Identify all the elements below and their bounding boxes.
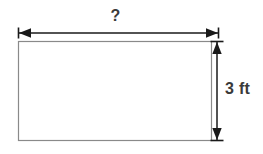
width-left-arrowhead — [19, 28, 31, 38]
height-top-arrowhead — [212, 42, 221, 54]
width-right-arrowhead — [206, 28, 218, 38]
width-dimension-label: ? — [0, 8, 231, 24]
height-dimension-label: 3 ft — [225, 81, 250, 97]
rectangle-outline — [19, 42, 212, 141]
width-dimension-arrow — [19, 28, 219, 39]
height-dimension-arrow — [211, 42, 224, 141]
geometry-diagram-canvas: ? 3 ft — [0, 0, 263, 154]
height-bottom-arrowhead — [212, 128, 221, 140]
